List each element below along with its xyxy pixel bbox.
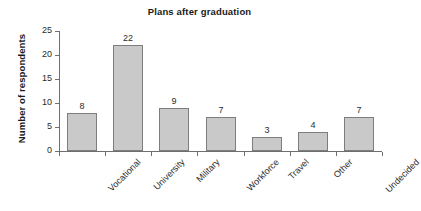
bar: 22 [113, 45, 143, 151]
bar: 8 [67, 113, 97, 151]
y-axis-tick: 25 [55, 31, 59, 32]
x-axis-category-label-text: University [152, 157, 187, 192]
y-axis-tick: 10 [55, 103, 59, 104]
x-axis-category-label: Workforce [244, 157, 280, 193]
y-axis-tick-label: 15 [42, 73, 52, 83]
x-axis-tick-mark [105, 152, 106, 156]
bar: 7 [344, 117, 374, 151]
bar: 9 [159, 108, 189, 151]
y-axis-tick-label: 20 [42, 49, 52, 59]
x-axis-category-label: Military [195, 157, 222, 184]
x-axis-line [59, 151, 382, 152]
bar-value-label: 7 [356, 105, 361, 115]
x-axis-tick-mark [59, 152, 60, 156]
y-axis-tick: 15 [55, 79, 59, 80]
y-axis-tick-mark [55, 31, 59, 32]
bar-value-label: 4 [310, 120, 315, 130]
bar-value-label: 7 [218, 105, 223, 115]
y-axis-tick-label: 10 [42, 97, 52, 107]
bar: 7 [206, 117, 236, 151]
bar-value-label: 3 [264, 125, 269, 135]
x-axis-category-label: Undecided [384, 157, 421, 194]
x-axis-category-label-text: Travel [286, 157, 311, 182]
bar: 4 [298, 132, 328, 151]
x-axis-category-label-text: Military [195, 157, 222, 184]
x-axis-category-label: University [152, 157, 187, 192]
x-axis-category-label: Vocational [106, 157, 142, 193]
y-axis-tick-mark [55, 103, 59, 104]
x-axis-category-label-text: Vocational [106, 157, 142, 193]
x-axis-tick-mark [197, 152, 198, 156]
bar-value-label: 22 [123, 33, 133, 43]
y-axis-tick: 5 [55, 127, 59, 128]
y-axis-tick-mark [55, 55, 59, 56]
x-axis-category-label: Travel [286, 157, 311, 182]
x-axis-tick-mark [151, 152, 152, 156]
x-axis-tick-mark [382, 152, 383, 156]
y-axis-tick-mark [55, 79, 59, 80]
x-axis-category-label: Other [331, 157, 354, 180]
x-axis-category-label-text: Undecided [384, 157, 421, 194]
plot-area: 0510152025 82297347 [59, 31, 382, 152]
x-axis-category-label-text: Other [331, 157, 354, 180]
y-axis-line [59, 31, 60, 152]
x-axis-category-label-text: Workforce [244, 157, 280, 193]
y-axis-tick-label: 5 [47, 121, 52, 131]
x-axis-tick-mark [290, 152, 291, 156]
bar-value-label: 9 [171, 96, 176, 106]
y-axis-tick: 20 [55, 55, 59, 56]
bar-value-label: 8 [79, 101, 84, 111]
bar: 3 [252, 137, 282, 151]
y-axis-tick-mark [55, 127, 59, 128]
y-axis-tick-label: 0 [47, 145, 52, 155]
x-axis-tick-mark [244, 152, 245, 156]
chart-title: Plans after graduation [0, 6, 399, 17]
y-axis-title: Number of respondents [16, 24, 27, 154]
x-axis-tick-mark [336, 152, 337, 156]
y-axis-tick-label: 25 [42, 25, 52, 35]
